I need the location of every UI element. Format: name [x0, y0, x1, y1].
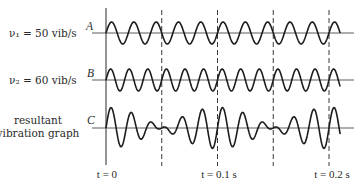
- nu1-label: ν₁ = 50 vib/s: [9, 27, 77, 39]
- time-label-0: t = 0: [97, 168, 118, 180]
- graph-c-letter: C: [87, 114, 95, 126]
- graph-a-letter: A: [85, 20, 94, 32]
- vibration-diagram: ν₁ = 50 vib/s ν₂ = 60 vib/s resultant vi…: [0, 0, 360, 185]
- graph-b-letter: B: [87, 67, 94, 79]
- nu2-label: ν₂ = 60 vib/s: [9, 74, 77, 86]
- time-label-0-1: t = 0.1 s: [201, 168, 237, 180]
- time-label-0-2: t = 0.2 s: [314, 168, 350, 180]
- resultant-label-line1: resultant: [14, 114, 63, 126]
- resultant-label-line2: vibration graph: [0, 127, 80, 139]
